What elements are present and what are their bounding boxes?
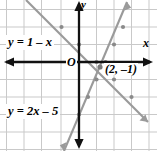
intersection-point-marker [97, 64, 102, 69]
y-axis-label: y [81, 0, 86, 10]
x-axis-label: x [143, 37, 149, 49]
equation-label-line1: y = 1 – x [6, 35, 54, 50]
equation-label-line2: y = 2x – 5 [6, 104, 60, 119]
coordinate-graph-figure: y = 1 – x y = 2x – 5 (2, –1) O x y [0, 0, 157, 151]
intersection-point-label: (2, –1) [104, 63, 138, 75]
origin-label: O [66, 56, 77, 68]
